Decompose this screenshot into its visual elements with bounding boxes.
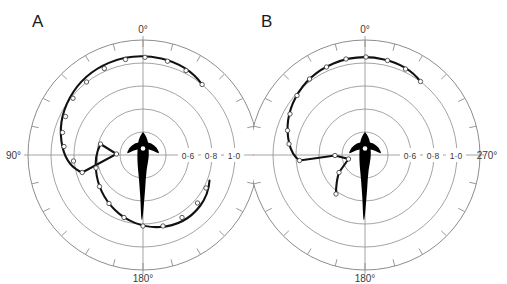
data-curve-b-hook [300,156,349,195]
radial-label-a-08: 0·8 [205,151,218,161]
angle-label-a-180: 180° [133,273,154,284]
angle-label-b-270: 270° [477,150,498,161]
fish-silhouette-b [349,132,381,220]
polar-panel-b: B [253,0,507,284]
radial-label-a-10: 1·0 [228,151,241,161]
fish-eye-b [363,146,368,151]
radial-label-b-06: 0·6 [404,151,417,161]
radial-label-a-06: 0·6 [182,151,195,161]
polar-plot-a: 0° 90° 180° 0·6 0·8 1·0 [0,0,254,284]
polar-plot-b: 0° 180° 270° 0·6 0·8 1·0 [253,0,507,284]
radial-labels-b: 0·6 0·8 1·0 [400,148,466,162]
angle-label-a-0: 0° [138,24,148,35]
fish-silhouette-a [127,132,159,220]
angle-label-b-0: 0° [360,24,370,35]
angle-label-b-180: 180° [355,273,376,284]
polar-panel-a: A [0,0,254,284]
angle-label-a-90: 90° [6,150,21,161]
radial-labels-a: 0·6 0·8 1·0 [178,148,244,162]
radial-label-b-10: 1·0 [450,151,463,161]
fish-eye-a [141,146,146,151]
data-curve-b-spiral [288,57,421,160]
radial-label-b-08: 0·8 [427,151,440,161]
figure-canvas: A [0,0,507,284]
